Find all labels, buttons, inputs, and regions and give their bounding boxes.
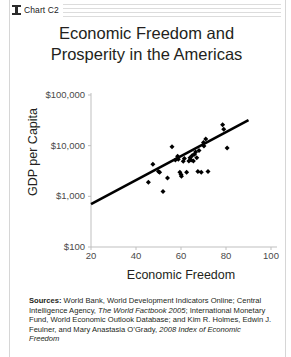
data-point: [150, 162, 155, 167]
sources-prefix: Sources:: [29, 296, 62, 305]
data-point: [170, 144, 175, 149]
sources-italic-1: The World Factbook 2005: [98, 306, 185, 315]
data-point: [199, 170, 204, 175]
data-point: [225, 145, 230, 150]
scatter-plot-svg: [0, 0, 291, 291]
data-point: [165, 176, 170, 181]
data-points: [146, 122, 230, 194]
data-point: [161, 189, 166, 194]
data-point: [220, 122, 225, 127]
chart-page: Chart C2 Economic Freedom and Prosperity…: [0, 0, 291, 357]
trend-line: [91, 120, 249, 204]
data-point: [206, 169, 211, 174]
data-point: [184, 170, 189, 175]
sources-note: Sources: World Bank, World Development I…: [29, 296, 273, 344]
data-point: [146, 180, 151, 185]
plot-area: GDP per Capita Economic Freedom $100$1,0…: [0, 0, 291, 291]
